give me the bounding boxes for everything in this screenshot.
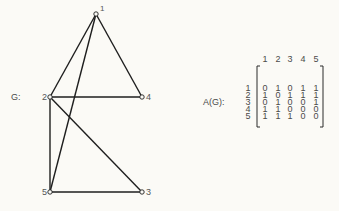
graph-nodes xyxy=(48,12,144,194)
edge-1-2 xyxy=(50,14,96,97)
matrix-column-header: 4 xyxy=(299,55,307,64)
node-5 xyxy=(48,190,52,194)
matrix-column-header: 3 xyxy=(286,55,294,64)
edge-2-3 xyxy=(50,97,142,192)
node-label-4: 4 xyxy=(146,93,151,102)
matrix-left-bracket xyxy=(257,66,260,127)
node-4 xyxy=(140,95,144,99)
matrix-column-header: 1 xyxy=(261,55,269,64)
node-label-2: 2 xyxy=(42,93,47,102)
node-1 xyxy=(94,12,98,16)
node-label-3: 3 xyxy=(146,188,151,197)
node-2 xyxy=(48,95,52,99)
node-label-5: 5 xyxy=(42,188,47,197)
graph-edges xyxy=(50,14,142,192)
matrix-row-header: 5 xyxy=(244,112,252,121)
matrix-cell: 0 xyxy=(312,112,320,121)
matrix-cell: 1 xyxy=(286,112,294,121)
matrix-column-header: 5 xyxy=(312,55,320,64)
matrix-right-bracket xyxy=(320,66,323,127)
node-3 xyxy=(140,190,144,194)
matrix-label: A(G): xyxy=(203,98,225,107)
node-label-1: 1 xyxy=(100,4,104,13)
matrix-cell: 1 xyxy=(274,112,282,121)
matrix-column-header: 2 xyxy=(274,55,282,64)
edge-1-5 xyxy=(50,14,96,192)
matrix-cell: 1 xyxy=(261,112,269,121)
graph-label: G: xyxy=(11,93,21,102)
matrix-cell: 0 xyxy=(299,112,307,121)
edge-1-4 xyxy=(96,14,142,97)
